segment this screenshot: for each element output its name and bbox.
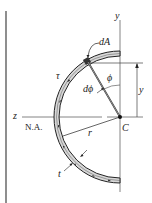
tau-label: τ — [56, 70, 60, 81]
phi-label: ϕ — [107, 72, 112, 83]
centroid-point — [118, 115, 122, 119]
thickness-arrowhead-inner — [80, 154, 84, 157]
y-axis-label: y — [114, 10, 120, 21]
phi-arc — [104, 85, 120, 89]
dA-label: dA — [99, 36, 111, 47]
dA-leader-arrowhead — [87, 55, 90, 58]
centroid-label: C — [122, 122, 129, 133]
dphi-label: dϕ — [83, 83, 93, 94]
y-dim-label: y — [138, 84, 144, 95]
semicircle-section-diagram: y dA ϕ dϕ τ y z N.A. C r t — [0, 0, 152, 203]
shear-flow-arrows — [58, 79, 111, 181]
z-axis-label: z — [12, 110, 17, 121]
thickness-label: t — [58, 168, 61, 179]
neutral-axis-label: N.A. — [25, 122, 43, 132]
dA-leader — [88, 43, 99, 56]
radius-label: r — [88, 127, 92, 138]
y-dim-arrowhead — [135, 63, 139, 68]
